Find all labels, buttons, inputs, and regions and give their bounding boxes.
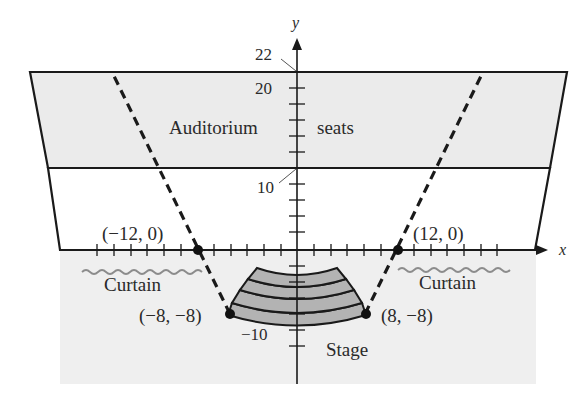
y-tick-20: 20	[255, 79, 272, 98]
auditorium-label: Auditorium	[169, 117, 258, 138]
seats-label: seats	[317, 117, 354, 138]
point-label-neg8-neg8: (−8, −8)	[139, 305, 202, 327]
point-12-0	[393, 245, 403, 255]
point-neg8-neg8	[225, 309, 235, 319]
curtain-right-label: Curtain	[419, 272, 476, 293]
point-neg12-0	[193, 245, 203, 255]
point-8-neg8	[361, 309, 371, 319]
stage-label: Stage	[326, 339, 368, 360]
y-tick-neg10: −10	[241, 325, 268, 344]
point-label-8-neg8: (8, −8)	[381, 305, 433, 327]
y-tick-10: 10	[257, 178, 274, 197]
y-tick-22: 22	[255, 45, 272, 64]
curtain-left-label: Curtain	[104, 274, 161, 295]
auditorium-diagram: y x 22 20 10 −10 Auditorium seats (−12, …	[0, 0, 585, 400]
leader-line-22	[281, 59, 296, 71]
point-label-neg12-0: (−12, 0)	[102, 223, 163, 245]
point-label-12-0: (12, 0)	[413, 223, 464, 245]
y-axis-label: y	[290, 14, 300, 32]
x-axis-label: x	[558, 241, 566, 258]
